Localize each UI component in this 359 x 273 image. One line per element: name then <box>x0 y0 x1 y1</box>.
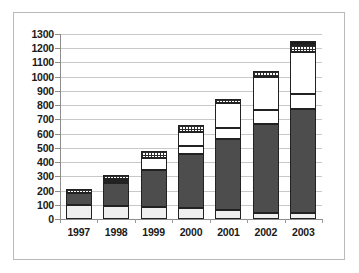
bar-segment-dark-gray <box>141 170 167 207</box>
y-axis-tick-label: 500 <box>37 143 54 153</box>
x-axis-tick-label-1999: 1999 <box>142 226 165 238</box>
bar-2003[interactable] <box>290 34 316 219</box>
y-axis-tick-label: 200 <box>37 186 54 196</box>
x-axis-tickmark <box>135 219 136 223</box>
x-axis-tickmark <box>285 219 286 223</box>
bar-segment-dark-gray <box>103 183 129 206</box>
y-axis-tickmark <box>55 134 60 135</box>
bar-2000[interactable] <box>178 34 204 219</box>
x-axis-tickmark <box>247 219 248 223</box>
bar-segment-checkered <box>253 71 279 77</box>
bar-segment-checkered <box>290 45 316 52</box>
bar-segment-light-gray <box>103 206 129 219</box>
bar-segment-checkered <box>178 125 204 132</box>
bar-segment-white <box>253 77 279 110</box>
y-axis-tick-label: 800 <box>37 100 54 110</box>
bar-segment-light-gray <box>141 207 167 219</box>
chart-plot-wrapper: 1300120011001000900800700600500400300200… <box>14 13 346 261</box>
bar-segment-white <box>141 158 167 170</box>
y-axis-tick-label: 300 <box>37 171 54 181</box>
bar-segment-white <box>290 94 316 109</box>
bar-segment-white <box>178 146 204 154</box>
y-axis-tickmark <box>55 34 60 35</box>
y-axis-tickmark <box>55 48 60 49</box>
y-axis-line <box>60 34 61 220</box>
y-axis-tickmark <box>55 119 60 120</box>
y-axis-tickmark <box>55 91 60 92</box>
bar-segment-dark-gray <box>215 139 241 211</box>
bar-segment-dark-gray <box>178 154 204 208</box>
y-axis-tickmark <box>55 162 60 163</box>
x-axis-tick-label-2003: 2003 <box>292 226 315 238</box>
bar-segment-dark-gray <box>66 193 92 205</box>
chart-frame: 1300120011001000900800700600500400300200… <box>13 12 345 260</box>
bar-segment-checkered <box>215 99 241 103</box>
y-axis-tickmark <box>55 205 60 206</box>
x-axis-tickmark <box>97 219 98 223</box>
x-axis-tick-label-1997: 1997 <box>67 226 90 238</box>
y-axis: 1300120011001000900800700600500400300200… <box>14 13 58 261</box>
y-axis-tick-label: 0 <box>48 214 54 224</box>
bar-segment-light-gray <box>215 210 241 219</box>
bar-2002[interactable] <box>253 34 279 219</box>
x-axis-tickmark <box>172 219 173 223</box>
bar-segment-white <box>215 103 241 128</box>
y-axis-tick-label: 1100 <box>32 57 54 67</box>
bar-segment-white <box>103 181 129 183</box>
y-axis-tick-label: 1000 <box>31 72 54 82</box>
x-axis: 1997199819992000200120022003 <box>60 226 322 246</box>
x-axis-tick-label-2001: 2001 <box>217 226 240 238</box>
bar-segment-dark-gray <box>253 124 279 213</box>
y-axis-tick-label: 900 <box>37 86 54 96</box>
bar-segment-light-gray <box>66 205 92 219</box>
y-axis-tick-label: 700 <box>37 114 54 124</box>
bar-segment-checkered <box>66 189 92 193</box>
bar-2001[interactable] <box>215 34 241 219</box>
x-axis-line <box>60 219 322 220</box>
y-axis-tick-label: 1300 <box>31 29 54 39</box>
bar-segment-white <box>215 128 241 139</box>
bar-segment-light-gray <box>178 208 204 219</box>
y-axis-tickmark <box>55 191 60 192</box>
bar-1997[interactable] <box>66 34 92 219</box>
y-axis-tickmark <box>55 77 60 78</box>
x-axis-tick-label-1998: 1998 <box>105 226 128 238</box>
bar-segment-white <box>103 179 129 181</box>
bar-1998[interactable] <box>103 34 129 219</box>
bar-segment-checkered <box>141 151 167 157</box>
bar-segment-black <box>290 41 316 45</box>
x-axis-tickmark <box>210 219 211 223</box>
y-axis-tickmark <box>55 148 60 149</box>
y-axis-tick-label: 100 <box>37 200 54 210</box>
y-axis-tickmark <box>55 105 60 106</box>
y-axis-tick-label: 1200 <box>31 43 54 53</box>
x-axis-tickmark <box>322 219 323 223</box>
bar-1999[interactable] <box>141 34 167 219</box>
y-axis-tickmark <box>55 62 60 63</box>
bar-segment-white <box>290 52 316 94</box>
x-axis-tick-label-2000: 2000 <box>180 226 203 238</box>
y-axis-tickmark <box>55 176 60 177</box>
y-axis-tick-label: 400 <box>37 157 54 167</box>
x-axis-tickmark <box>60 219 61 223</box>
bar-segment-checkered <box>103 175 129 179</box>
bar-segment-white <box>178 132 204 146</box>
plot-area <box>60 34 322 219</box>
bar-segment-white <box>253 110 279 124</box>
x-axis-tick-label-2002: 2002 <box>255 226 278 238</box>
y-axis-tick-label: 600 <box>37 129 54 139</box>
bar-segment-dark-gray <box>290 109 316 214</box>
